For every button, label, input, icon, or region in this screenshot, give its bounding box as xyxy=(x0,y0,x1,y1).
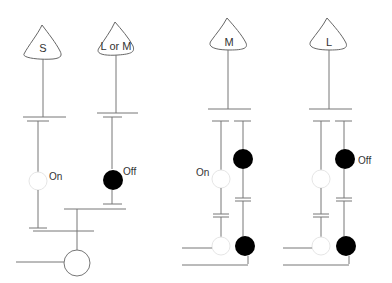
head-s-label: S xyxy=(39,42,46,54)
middle-off-circle-upper xyxy=(233,149,253,169)
middle-state-label: On xyxy=(196,167,209,178)
state-on-label: On xyxy=(49,171,62,182)
head-m: M xyxy=(210,18,247,50)
offspring-circle xyxy=(64,250,90,276)
off-circle xyxy=(103,170,123,190)
middle-on-circle-lower xyxy=(212,237,230,255)
head-s: S xyxy=(24,25,61,59)
head-l-or-m-label: L or M xyxy=(101,40,132,52)
head-l: L xyxy=(310,18,347,50)
head-m-label: M xyxy=(224,36,233,48)
head-l-or-m: L or M xyxy=(98,22,134,55)
right-off-circle-upper xyxy=(335,149,355,169)
state-off-label: Off xyxy=(123,166,136,177)
middle-on-circle-upper xyxy=(212,170,230,188)
on-circle xyxy=(29,172,47,190)
pedigree-diagram: S On L or M Off M xyxy=(0,0,392,283)
right-panel: L Off xyxy=(283,18,371,265)
middle-off-circle-lower xyxy=(235,236,255,256)
left-panel: S On L or M Off xyxy=(16,22,138,276)
right-state-label: Off xyxy=(358,155,371,166)
right-on-circle-lower xyxy=(312,237,330,255)
head-l-label: L xyxy=(326,36,332,48)
middle-panel: M On xyxy=(182,18,255,265)
right-on-circle-upper xyxy=(312,170,330,188)
right-off-circle-lower xyxy=(336,236,356,256)
